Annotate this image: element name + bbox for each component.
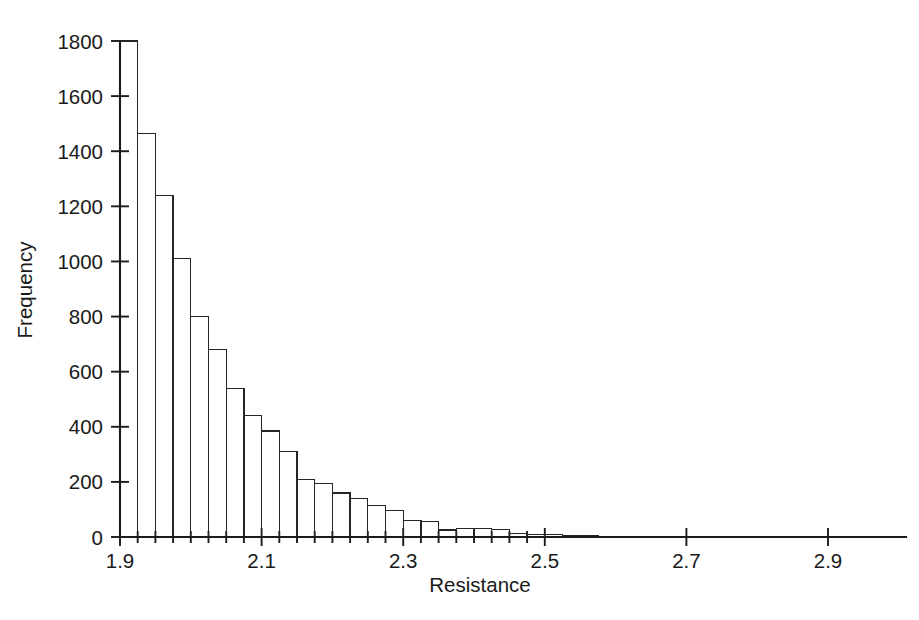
histogram-bar xyxy=(297,479,315,537)
y-axis-tick-label: 1600 xyxy=(57,85,103,108)
y-axis-tick-labels: 020040060080010001200140016001800 xyxy=(57,30,103,549)
histogram-bar xyxy=(120,41,138,537)
histogram-bar xyxy=(456,529,474,537)
histogram-bar xyxy=(191,317,209,537)
y-axis-tick-label: 1000 xyxy=(57,250,103,273)
histogram-bars xyxy=(120,41,616,537)
histogram-bar xyxy=(262,431,280,537)
histogram-bar xyxy=(138,133,156,537)
histogram-bar xyxy=(226,388,244,537)
histogram-svg: 020040060080010001200140016001800 1.92.1… xyxy=(0,0,919,620)
histogram-bar xyxy=(279,452,297,537)
x-axis-tick-label: 2.9 xyxy=(814,549,843,572)
y-axis-tick-label: 0 xyxy=(92,526,103,549)
histogram-bar xyxy=(368,505,386,537)
histogram-bar xyxy=(403,520,421,537)
histogram-bar xyxy=(173,259,191,537)
x-axis-tick-label: 2.7 xyxy=(672,549,701,572)
x-axis-tick-label: 2.1 xyxy=(247,549,276,572)
histogram-bar xyxy=(386,511,404,537)
histogram-bar xyxy=(421,522,439,537)
x-axis-tick-labels: 1.92.12.32.52.72.9 xyxy=(106,549,843,572)
x-axis-tick-label: 2.5 xyxy=(531,549,560,572)
histogram-bar xyxy=(474,529,492,537)
histogram-bar xyxy=(350,498,368,537)
histogram-bar xyxy=(209,350,227,537)
y-axis-tick-label: 1400 xyxy=(57,140,103,163)
x-axis-title: Resistance xyxy=(429,573,530,596)
x-axis-tick-label: 2.3 xyxy=(389,549,418,572)
y-axis-tick-label: 800 xyxy=(69,305,103,328)
y-axis-tick-label: 400 xyxy=(69,415,103,438)
histogram-chart: 020040060080010001200140016001800 1.92.1… xyxy=(0,0,919,620)
x-axis-tick-label: 1.9 xyxy=(106,549,135,572)
histogram-bar xyxy=(315,483,333,537)
histogram-bar xyxy=(492,529,510,537)
y-axis-tick-label: 200 xyxy=(69,470,103,493)
y-axis-tick-label: 600 xyxy=(69,360,103,383)
histogram-bar xyxy=(332,493,350,537)
histogram-bar xyxy=(244,416,262,537)
y-axis-tick-label: 1200 xyxy=(57,195,103,218)
y-axis-tick-label: 1800 xyxy=(57,30,103,53)
histogram-bar xyxy=(155,195,173,537)
y-axis-title: Frequency xyxy=(13,241,36,339)
